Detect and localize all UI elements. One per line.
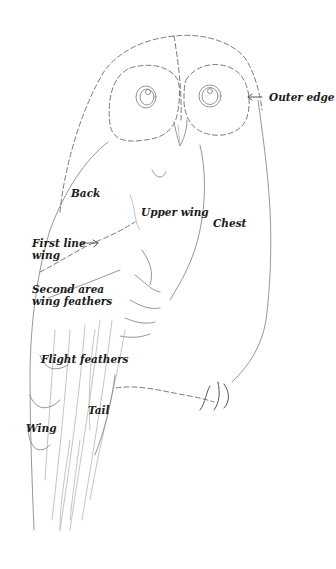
head-outline	[60, 35, 262, 212]
label-second-area-2: wing feathers	[32, 295, 112, 307]
beak	[174, 120, 187, 146]
label-first-line-wing-1: First line	[32, 237, 86, 249]
perch	[116, 387, 214, 402]
label-first-line-wing-2: wing	[32, 249, 60, 261]
left-eye-icon	[136, 86, 156, 108]
back-outline	[30, 142, 108, 530]
label-upper-wing: Upper wing	[141, 206, 209, 218]
outer-body-right	[232, 100, 271, 382]
head-center-line	[174, 36, 181, 120]
label-tail: Tail	[88, 404, 110, 416]
label-outer-edge: Outer edge	[269, 91, 335, 103]
chest-line	[170, 145, 205, 300]
right-eye-icon	[199, 85, 221, 107]
label-second-area-1: Second area	[32, 283, 104, 295]
label-flight-feathers: Flight feathers	[41, 353, 129, 365]
label-wing: Wing	[26, 422, 57, 434]
right-facial-disc	[184, 65, 249, 136]
left-facial-disc	[109, 65, 179, 141]
label-back: Back	[71, 187, 100, 199]
talons-icon	[200, 382, 229, 410]
label-chest: Chest	[213, 217, 246, 229]
